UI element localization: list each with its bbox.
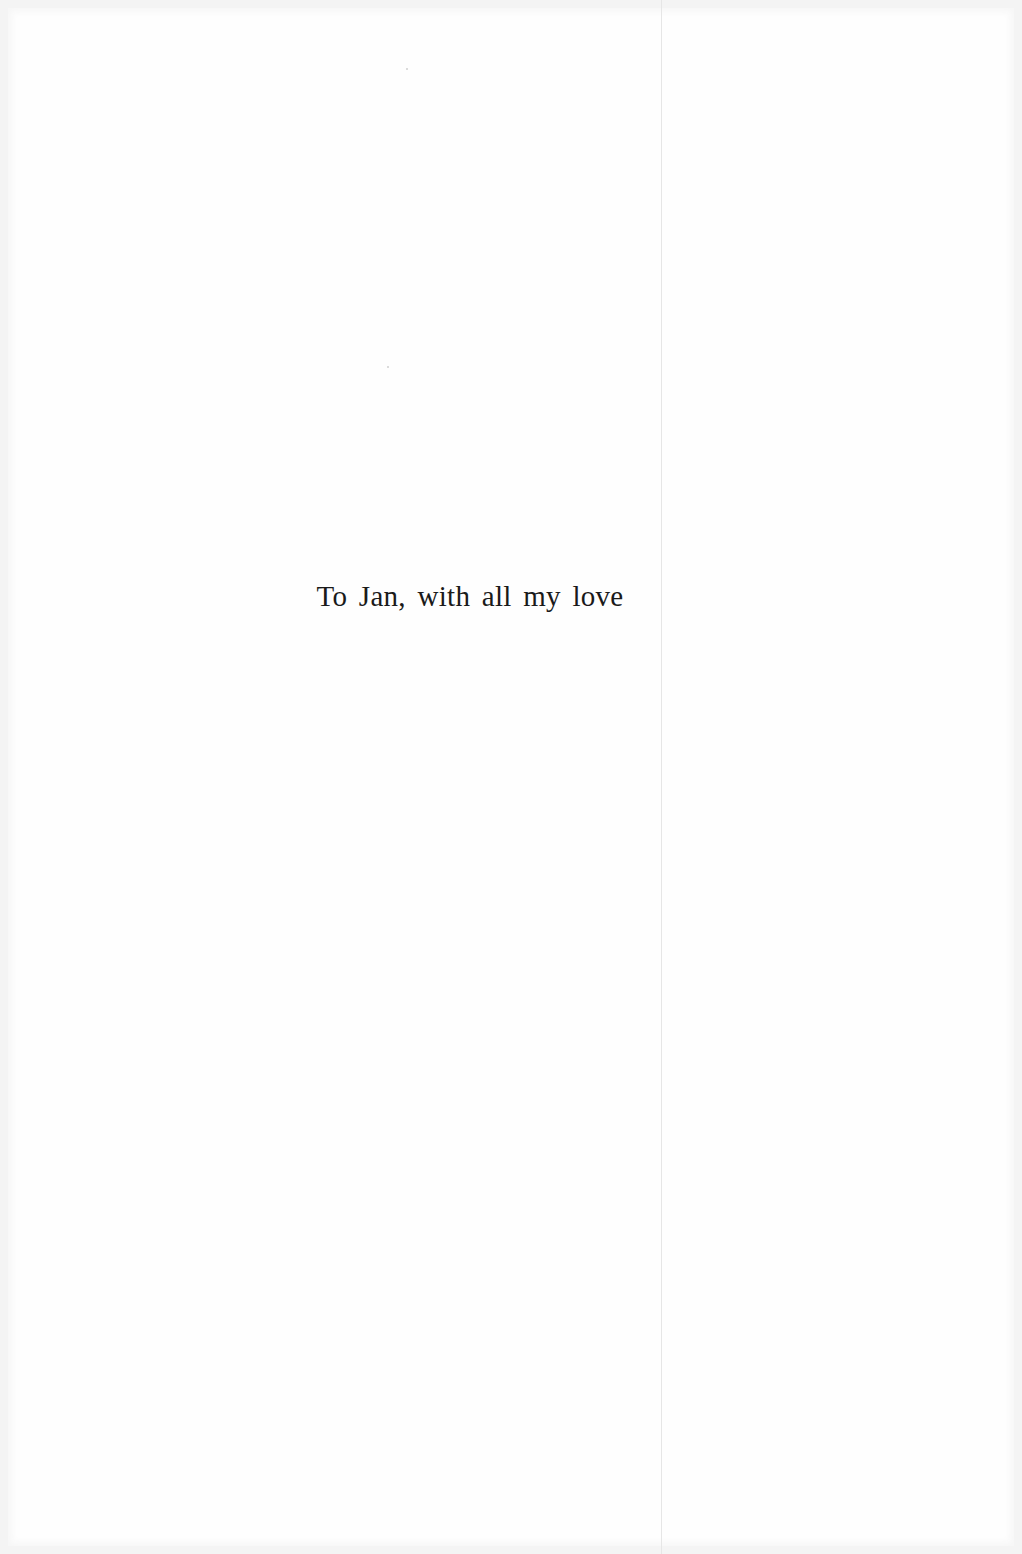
scan-speck bbox=[406, 68, 408, 70]
book-page bbox=[8, 8, 1014, 1546]
page-gutter-line bbox=[661, 0, 662, 1554]
scan-speck bbox=[387, 366, 389, 368]
dedication-text: To Jan, with all my love bbox=[0, 580, 940, 613]
